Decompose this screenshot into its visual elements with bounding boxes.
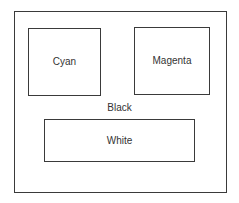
white-box: White xyxy=(44,119,195,162)
cyan-box: Cyan xyxy=(28,28,101,96)
cyan-label: Cyan xyxy=(29,56,100,67)
magenta-box: Magenta xyxy=(134,27,210,95)
white-label: White xyxy=(45,134,194,145)
black-label: Black xyxy=(0,102,239,113)
magenta-label: Magenta xyxy=(135,55,209,66)
